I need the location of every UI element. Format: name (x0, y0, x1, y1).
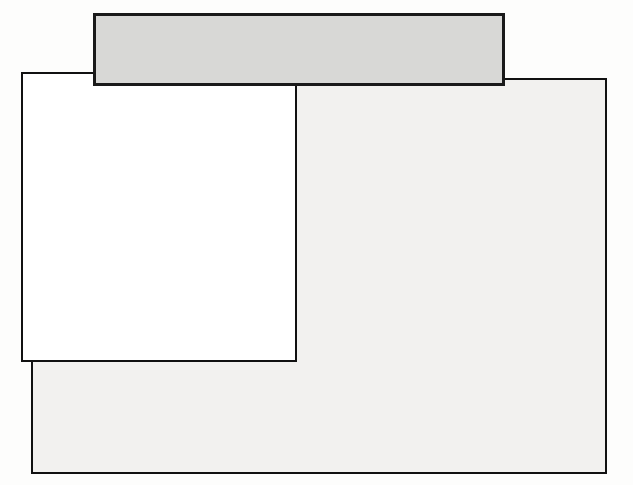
legend-panel (21, 72, 297, 362)
title-plaque (93, 13, 505, 86)
chart-page (0, 0, 633, 485)
